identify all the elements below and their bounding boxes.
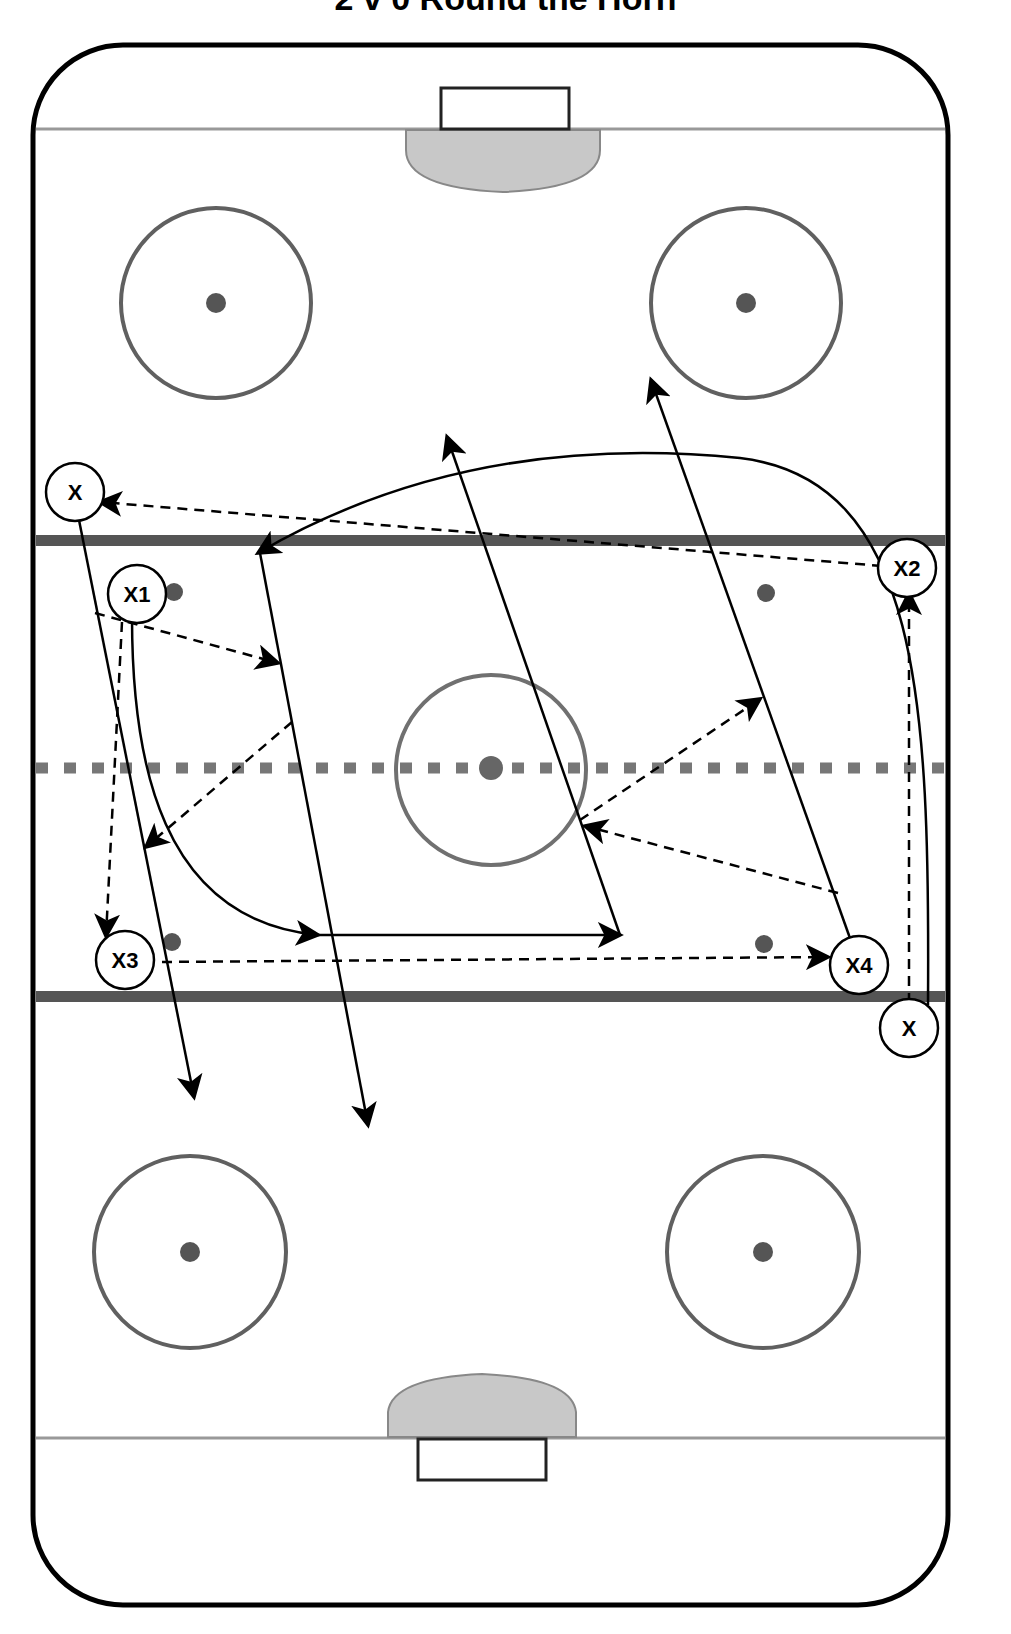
player-x2[interactable]: X2 (878, 539, 936, 597)
goal-net-top (441, 88, 569, 129)
player-x-top-left[interactable]: X (46, 463, 104, 521)
faceoff-dot-top-left (206, 293, 226, 313)
blue-line-top (36, 535, 945, 546)
svg-text:X4: X4 (846, 953, 874, 978)
goal-crease-bottom (388, 1374, 576, 1437)
hockey-rink-diagram: X X1 X2 X3 X4 X (0, 0, 1011, 1634)
svg-text:X2: X2 (894, 556, 921, 581)
svg-text:X: X (902, 1016, 917, 1041)
player-x4[interactable]: X4 (830, 936, 888, 994)
neutral-dot-bottom-right (755, 935, 773, 953)
goal-net-bottom (418, 1439, 546, 1480)
faceoff-dot-bottom-right (753, 1242, 773, 1262)
player-x-bottom-right[interactable]: X (880, 999, 938, 1057)
faceoff-dot-top-right (736, 293, 756, 313)
center-faceoff-dot (479, 756, 503, 780)
neutral-dot-top-right (757, 584, 775, 602)
neutral-dot-top-left (165, 583, 183, 601)
player-x3[interactable]: X3 (96, 931, 154, 989)
player-x1[interactable]: X1 (108, 565, 166, 623)
faceoff-dot-bottom-left (180, 1242, 200, 1262)
svg-text:X: X (68, 480, 83, 505)
svg-text:X1: X1 (124, 582, 151, 607)
svg-text:X3: X3 (112, 948, 139, 973)
neutral-dot-bottom-left (163, 933, 181, 951)
